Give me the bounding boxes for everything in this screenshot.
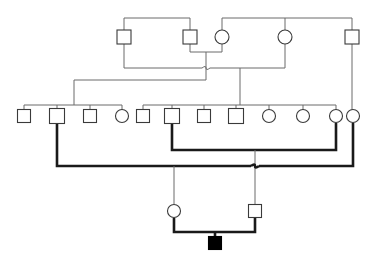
symbol-I-3-female[interactable] bbox=[215, 30, 229, 44]
symbol-I-5-male[interactable] bbox=[345, 30, 359, 44]
symbol-III-1-female[interactable] bbox=[168, 205, 181, 218]
symbol-I-4-female[interactable] bbox=[278, 30, 292, 44]
generation-2-group bbox=[18, 105, 360, 204]
generation-1-group bbox=[74, 18, 359, 110]
descent-to-sibship-gen2-left bbox=[74, 64, 206, 105]
symbol-II-4-female[interactable] bbox=[116, 110, 129, 123]
symbol-II-10-female[interactable] bbox=[297, 110, 310, 123]
symbol-III-2-male[interactable] bbox=[249, 205, 262, 218]
pedigree-canvas bbox=[0, 0, 374, 265]
symbol-II-9-female[interactable] bbox=[263, 110, 276, 123]
mating-line-II2-left bbox=[57, 123, 251, 166]
symbol-I-1-male[interactable] bbox=[117, 30, 131, 44]
mating-I1-I3 bbox=[74, 44, 240, 105]
generation-3-group bbox=[168, 205, 262, 238]
mating-line-III1-III2 bbox=[174, 218, 255, 232]
pedigree-chart bbox=[0, 0, 374, 265]
generation-4-group bbox=[209, 237, 222, 250]
mating-I3-I4 bbox=[240, 44, 285, 105]
mating-line-I3-I4 bbox=[240, 44, 285, 68]
mating-line-II2-right bbox=[259, 123, 353, 166]
symbol-II-7-male[interactable] bbox=[198, 110, 211, 123]
symbol-II-8-male[interactable] bbox=[229, 109, 244, 124]
symbol-II-6-male[interactable] bbox=[165, 109, 180, 124]
sibship-top-right bbox=[222, 18, 352, 30]
sibship-top-left bbox=[124, 18, 190, 30]
mating-line-II6-II11 bbox=[172, 123, 336, 150]
mating-II2-II12 bbox=[57, 123, 353, 204]
line-hop-bridge-2 bbox=[251, 165, 259, 168]
symbol-II-12-female[interactable] bbox=[347, 110, 360, 123]
symbol-II-1-male[interactable] bbox=[18, 110, 31, 123]
mating-line-I2-I3 bbox=[190, 44, 222, 52]
sibship-gen2-left bbox=[24, 105, 122, 110]
symbol-II-3-male[interactable] bbox=[84, 110, 97, 123]
symbol-II-2-male[interactable] bbox=[50, 109, 65, 124]
symbol-II-5-male[interactable] bbox=[137, 110, 150, 123]
mating-III1-III2 bbox=[174, 218, 255, 237]
symbol-II-11-female[interactable] bbox=[330, 110, 343, 123]
symbol-IV-1-male-affected-proband[interactable] bbox=[209, 237, 222, 250]
mating-I2-I3 bbox=[190, 44, 222, 64]
symbol-I-2-male[interactable] bbox=[183, 30, 197, 44]
